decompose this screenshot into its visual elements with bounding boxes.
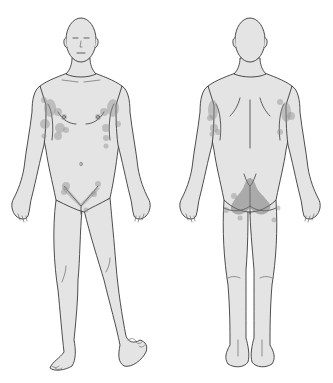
anterior-left-arm [12,86,46,219]
anterior-right-leg [84,198,147,366]
posterior-right-leg [250,200,277,367]
anterior-head [66,18,96,62]
posterior-right-arm [286,86,320,219]
anterior-torso [37,72,126,212]
posterior-figure [180,18,320,367]
posterior-head [235,18,265,62]
body-chart-figure [0,0,333,383]
anterior-left-leg [50,200,82,370]
anterior-right-arm [116,86,150,219]
anterior-figure [12,18,150,370]
posterior-left-leg [223,200,249,367]
